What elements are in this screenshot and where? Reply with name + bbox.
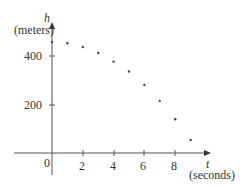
data-point bbox=[112, 60, 114, 62]
y-axis-units: (meters) bbox=[14, 24, 54, 36]
data-point bbox=[174, 118, 176, 120]
x-tick-2: 2 bbox=[79, 160, 85, 172]
x-tick-8: 8 bbox=[171, 160, 177, 172]
data-point bbox=[51, 41, 53, 43]
data-point bbox=[159, 100, 161, 102]
data-points bbox=[51, 41, 192, 141]
data-point bbox=[97, 52, 99, 54]
data-point bbox=[66, 42, 68, 44]
data-point bbox=[128, 70, 130, 72]
y-tick-400: 400 bbox=[24, 50, 42, 62]
x-axis-units: (seconds) bbox=[189, 169, 235, 181]
data-point bbox=[143, 84, 145, 86]
data-point bbox=[82, 46, 84, 48]
origin-label: 0 bbox=[44, 157, 50, 169]
y-tick-200: 200 bbox=[24, 99, 42, 111]
x-tick-4: 4 bbox=[110, 160, 116, 172]
x-axis-arrow-icon bbox=[204, 150, 211, 156]
x-tick-6: 6 bbox=[140, 160, 146, 172]
data-point bbox=[189, 139, 191, 141]
